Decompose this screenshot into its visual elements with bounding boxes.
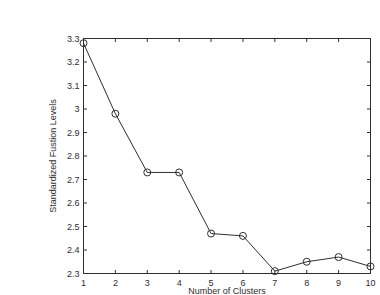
plot-background xyxy=(40,16,380,295)
cluster-scree-plot: 123456789102.32.42.52.62.72.82.933.13.23… xyxy=(40,16,380,295)
y-tick-label: 3.1 xyxy=(67,81,80,91)
y-axis-label: Standardized Fustion Levels xyxy=(48,99,58,213)
y-tick-label: 2.5 xyxy=(67,222,80,232)
y-tick-label: 2.4 xyxy=(67,245,80,255)
x-axis-label: Number of Clusters xyxy=(83,286,371,295)
y-tick-label: 3 xyxy=(74,104,79,114)
y-tick-label: 2.8 xyxy=(67,151,80,161)
y-tick-label: 2.6 xyxy=(67,198,80,208)
y-tick-label: 3.2 xyxy=(67,57,80,67)
y-tick-label: 2.9 xyxy=(67,128,80,138)
y-tick-label: 2.3 xyxy=(67,269,80,279)
y-tick-label: 2.7 xyxy=(67,175,80,185)
plot-canvas: 123456789102.32.42.52.62.72.82.933.13.23… xyxy=(40,16,380,295)
y-tick-label: 3.3 xyxy=(67,34,80,44)
